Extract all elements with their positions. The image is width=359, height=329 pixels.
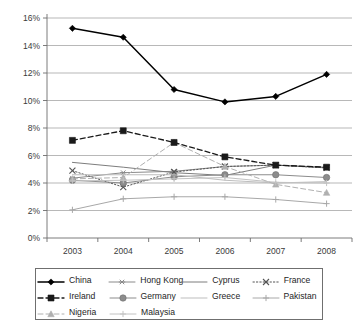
data-point-square-marker	[120, 128, 126, 134]
y-tick-label: 10%	[23, 96, 40, 106]
x-tick-label: 2007	[266, 246, 285, 256]
x-axis-labels-group: 200320042005200620072008	[63, 246, 336, 256]
data-point-plus-marker	[323, 180, 329, 186]
data-point-square-marker	[48, 295, 54, 301]
axis-lines-group	[47, 14, 352, 238]
legend-swatch-pakistan	[251, 292, 281, 304]
y-axis-ticks-group	[43, 18, 47, 238]
data-point-plus-marker	[120, 196, 126, 202]
data-point-square-marker	[69, 137, 75, 143]
y-tick-label: 8%	[28, 123, 41, 133]
x-axis-ticks-group	[47, 238, 352, 242]
x-tick-label: 2005	[165, 246, 184, 256]
legend-row: ChinaHong KongCyprusFrance	[36, 272, 322, 288]
plot-area: 0%2%4%6%8%10%12%14%16% 20032004200520062…	[0, 0, 359, 262]
data-point-square-marker	[273, 162, 279, 168]
legend-swatch-nigeria	[36, 308, 66, 320]
data-point-diamond-marker	[323, 71, 329, 77]
y-tick-label: 2%	[28, 206, 41, 216]
legend-swatch-malaysia	[108, 308, 138, 320]
legend-marker-icon	[36, 274, 66, 286]
data-point-plus-marker	[69, 207, 75, 213]
y-tick-label: 12%	[23, 68, 40, 78]
legend-label: China	[66, 275, 91, 285]
y-tick-label: 0%	[28, 233, 41, 243]
series-line	[72, 28, 326, 102]
y-axis-labels-group: 0%2%4%6%8%10%12%14%16%	[23, 13, 40, 243]
data-point-circle-marker	[119, 295, 125, 301]
y-tick-label: 14%	[23, 41, 40, 51]
legend-item-greece[interactable]: Greece	[179, 288, 251, 304]
legend-label: Pakistan	[281, 291, 317, 301]
series-line	[72, 197, 326, 210]
y-tick-label: 16%	[23, 13, 40, 23]
legend-item-nigeria[interactable]: Nigeria	[36, 304, 108, 320]
legend-label: Nigeria	[66, 307, 96, 317]
x-tick-label: 2008	[317, 246, 336, 256]
legend-label: Cyprus	[209, 275, 239, 285]
series-line	[72, 131, 326, 167]
series-nigeria	[69, 139, 330, 195]
legend-item-china[interactable]: China	[36, 272, 107, 288]
legend-marker-icon	[251, 274, 281, 286]
legend-item-cyprus[interactable]: Cyprus	[179, 272, 250, 288]
y-tick-label: 4%	[28, 178, 41, 188]
legend-marker-icon	[107, 274, 137, 286]
legend-swatch-china	[36, 276, 66, 288]
data-point-plus-marker	[222, 194, 228, 200]
series-line	[72, 175, 326, 183]
data-point-asterisk-marker	[119, 280, 125, 284]
data-point-square-marker	[324, 164, 330, 170]
data-point-plus-marker	[262, 295, 268, 301]
legend-label: Malaysia	[138, 307, 175, 317]
data-point-square-marker	[171, 139, 177, 145]
x-tick-label: 2004	[114, 246, 133, 256]
legend-row: IrelandGermanyGreecePakistan	[36, 288, 322, 304]
legend-item-france[interactable]: France	[251, 272, 322, 288]
chart-legend: ChinaHong KongCyprusFranceIrelandGermany…	[35, 268, 323, 320]
legend-swatch-ireland	[36, 292, 66, 304]
legend-marker-icon	[36, 306, 66, 318]
data-point-square-marker	[222, 154, 228, 160]
legend-label: France	[281, 275, 311, 285]
legend-item-malaysia[interactable]: Malaysia	[108, 304, 180, 320]
series-pakistan	[69, 194, 329, 213]
legend-swatch-cyprus	[179, 276, 209, 288]
data-point-plus-marker	[273, 196, 279, 202]
legend-label: Ireland	[66, 291, 95, 301]
y-tick-label: 6%	[28, 151, 41, 161]
legend-item-hong-kong[interactable]: Hong Kong	[107, 272, 179, 288]
x-tick-label: 2006	[215, 246, 234, 256]
line-chart-svg: 0%2%4%6%8%10%12%14%16% 20032004200520062…	[0, 0, 359, 262]
legend-swatch-hong-kong	[107, 276, 137, 288]
legend-swatch-greece	[179, 292, 209, 304]
data-point-diamond-marker	[273, 93, 279, 99]
series-ireland	[69, 128, 329, 170]
legend-marker-icon	[251, 290, 281, 302]
legend-marker-icon	[108, 290, 138, 302]
data-point-circle-marker	[273, 172, 279, 178]
legend-item-pakistan[interactable]: Pakistan	[251, 288, 323, 304]
data-point-circle-marker	[323, 174, 329, 180]
legend-swatch-germany	[108, 292, 138, 304]
legend-label: Hong Kong	[137, 275, 183, 285]
data-point-plus-marker	[120, 311, 126, 317]
series-china	[69, 25, 329, 105]
data-point-diamond-marker	[222, 99, 228, 105]
legend-marker-icon	[108, 306, 138, 318]
data-point-diamond-marker	[69, 25, 75, 31]
legend-item-germany[interactable]: Germany	[108, 288, 180, 304]
data-point-diamond-marker	[48, 279, 54, 285]
legend-label: Greece	[209, 291, 240, 301]
data-point-cross-marker	[69, 168, 75, 174]
legend-label: Germany	[138, 291, 176, 301]
legend-swatch-france	[251, 276, 281, 288]
legend-marker-icon	[179, 290, 209, 302]
chart-container: 0%2%4%6%8%10%12%14%16% 20032004200520062…	[0, 0, 359, 329]
legend-marker-icon	[36, 290, 66, 302]
data-series-group	[69, 25, 330, 213]
data-point-plus-marker	[171, 194, 177, 200]
legend-item-ireland[interactable]: Ireland	[36, 288, 108, 304]
data-point-plus-marker	[323, 201, 329, 207]
legend-marker-icon	[179, 274, 209, 286]
